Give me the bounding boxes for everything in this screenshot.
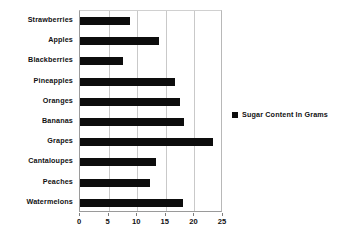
bar [80,118,184,126]
x-tick-mark [108,213,109,216]
category-label: Oranges [43,96,73,106]
x-tick-label: 25 [212,217,232,226]
category-label: Grapes [47,136,73,146]
bar-row [80,132,223,152]
bar [80,179,150,187]
bar [80,17,130,25]
category-label: Peaches [43,177,73,187]
bar-row [80,51,223,71]
category-label: Bananas [42,116,73,126]
x-tick-label: 0 [69,217,89,226]
bar-row [80,11,223,31]
x-tick-mark [165,213,166,216]
x-tick-mark [193,213,194,216]
bar [80,37,159,45]
x-tick-label: 20 [183,217,203,226]
legend-swatch-icon [232,112,238,118]
category-label: Strawberries [28,15,73,25]
legend-label: Sugar Content In Grams [242,110,328,119]
category-label: Cantaloupes [28,156,73,166]
bar-row [80,173,223,193]
category-axis: StrawberriesApplesBlackberriesPineapples… [0,10,76,212]
bar-row [80,31,223,51]
category-label: Watermelons [26,197,73,207]
x-tick-mark [136,213,137,216]
plot-area [79,10,222,212]
bar [80,158,156,166]
bar [80,78,175,86]
x-tick-mark [222,213,223,216]
bar [80,57,123,65]
value-axis: 0510152025 [79,213,222,229]
bar-row [80,92,223,112]
x-tick-label: 10 [126,217,146,226]
chart-legend: Sugar Content In Grams [232,110,328,119]
bar [80,98,180,106]
category-label: Apples [48,35,73,45]
category-label: Pineapples [34,76,73,86]
bar-chart: StrawberriesApplesBlackberriesPineapples… [0,0,361,250]
bar-row [80,193,223,213]
bar [80,138,213,146]
x-tick-mark [79,213,80,216]
x-tick-label: 5 [98,217,118,226]
x-tick-label: 15 [155,217,175,226]
bar [80,199,183,207]
bar-row [80,112,223,132]
bar-row [80,152,223,172]
category-label: Blackberries [28,55,73,65]
bar-row [80,72,223,92]
